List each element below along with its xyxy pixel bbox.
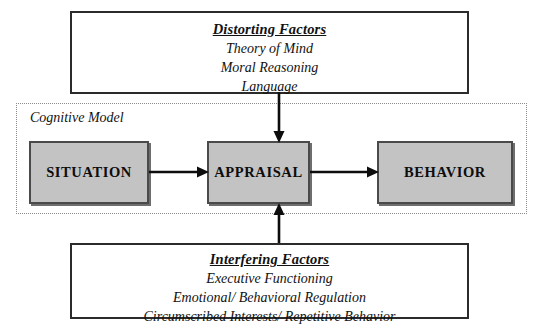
node-behavior-label: BEHAVIOR: [404, 164, 486, 181]
distorting-factors-item: Moral Reasoning: [72, 58, 467, 77]
cognitive-model-diagram: Distorting Factors Theory of Mind Moral …: [0, 0, 540, 335]
node-behavior: BEHAVIOR: [377, 141, 513, 204]
interfering-factors-title: Interfering Factors: [72, 250, 467, 269]
distorting-factors-box: Distorting Factors Theory of Mind Moral …: [70, 11, 469, 94]
arrow-situation-to-appraisal-icon: [149, 165, 209, 179]
node-situation: SITUATION: [29, 141, 149, 204]
arrow-interfering-factors-to-appraisal-icon: [272, 203, 286, 245]
interfering-factors-item: Circumscribed Interests/ Repetitive Beha…: [72, 307, 467, 326]
interfering-factors-item: Executive Functioning: [72, 269, 467, 288]
arrow-distorting-factors-to-appraisal-icon: [272, 92, 286, 143]
arrow-appraisal-to-behavior-icon: [310, 165, 379, 179]
node-situation-label: SITUATION: [46, 164, 132, 181]
interfering-factors-box: Interfering Factors Executive Functionin…: [70, 243, 469, 319]
distorting-factors-item: Language: [72, 77, 467, 96]
distorting-factors-item: Theory of Mind: [72, 39, 467, 58]
node-appraisal: APPRAISAL: [207, 141, 310, 204]
interfering-factors-item: Emotional/ Behavioral Regulation: [72, 288, 467, 307]
distorting-factors-title: Distorting Factors: [72, 20, 467, 39]
cognitive-model-label: Cognitive Model: [30, 110, 124, 126]
node-appraisal-label: APPRAISAL: [214, 164, 302, 181]
